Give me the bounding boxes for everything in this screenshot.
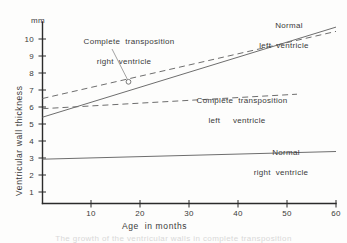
y-tick-label-9: 9 [20,52,34,61]
annotation-ct-right-ventricle: Complete transposition right ventricle [63,27,185,87]
y-tick-label-8: 8 [20,69,34,78]
figure-container: mm 10 9 8 7 6 5 4 3 2 1 10 20 30 40 50 6… [0,0,347,243]
annotation-normal-left-ventricle-line2: left ventricle [243,41,325,51]
annotation-normal-right-ventricle-line1: Normal [272,148,300,157]
x-tick-label-10: 10 [81,209,101,218]
annotation-normal-left-ventricle-line1: Normal [275,21,303,30]
figure-caption-cutoff: The growth of the ventricular walls in c… [0,234,347,243]
x-tick-label-40: 40 [228,209,248,218]
x-tick-label-20: 20 [130,209,150,218]
annotation-ct-left-ventricle-line2: left ventricle [178,116,296,126]
annotation-ct-left-ventricle: Complete transposition left ventricle [178,86,296,146]
x-tick-label-30: 30 [179,209,199,218]
annotation-ct-right-ventricle-line2: right ventricle [63,57,185,67]
x-tick-label-50: 50 [277,209,297,218]
annotation-normal-right-ventricle: Normal right ventricle [238,138,324,198]
annotation-normal-left-ventricle: Normal left ventricle [243,11,325,71]
annotation-normal-right-ventricle-line2: right ventricle [238,168,324,178]
y-axis-title: Ventricular wall thickness [14,85,24,196]
y-tick-label-10: 10 [20,35,34,44]
annotation-ct-left-ventricle-line1: Complete transposition [197,96,288,105]
y-axis-unit-label: mm [31,16,45,25]
x-tick-label-60: 60 [326,209,346,218]
x-axis-title: Age in months [122,221,187,231]
annotation-ct-right-ventricle-line1: Complete transposition [84,37,175,46]
